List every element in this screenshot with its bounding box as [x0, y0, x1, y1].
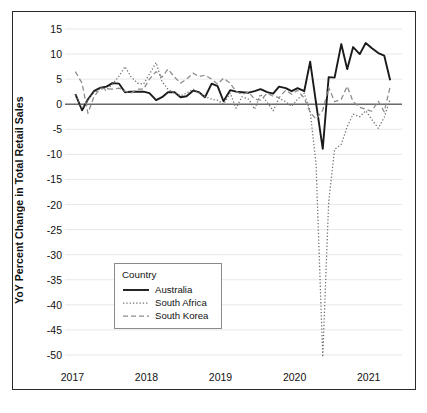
y-tick-label: -15: [26, 173, 62, 185]
x-tick-label: 2017: [61, 371, 84, 383]
legend-item-label: South Africa: [155, 297, 207, 308]
legend-item-label: South Korea: [155, 310, 208, 321]
chart-figure: YoY Percent Change in Total Retail Sales…: [0, 0, 427, 413]
y-tick-label: -20: [26, 199, 62, 211]
y-axis-tick-labels: 151050-5-10-15-20-25-30-35-40-45-50: [22, 24, 62, 365]
legend-title: Country: [122, 269, 214, 280]
legend-item-australia: Australia: [122, 283, 214, 296]
y-tick-label: 5: [26, 73, 62, 85]
y-tick-label: -40: [26, 299, 62, 311]
x-tick-label: 2019: [209, 371, 232, 383]
y-tick-label: -35: [26, 274, 62, 286]
y-tick-label: 15: [26, 23, 62, 35]
x-tick-label: 2018: [135, 371, 158, 383]
x-tick-label: 2020: [283, 371, 306, 383]
y-tick-label: 10: [26, 48, 62, 60]
y-tick-label: -50: [26, 349, 62, 361]
series-line-south-korea: [75, 69, 390, 119]
y-tick-label: -5: [26, 123, 62, 135]
legend: Country AustraliaSouth AfricaSouth Korea: [114, 263, 222, 329]
legend-item-label: Australia: [155, 284, 192, 295]
legend-line-swatch: [122, 298, 150, 308]
legend-entries: AustraliaSouth AfricaSouth Korea: [122, 283, 214, 322]
y-tick-label: -25: [26, 224, 62, 236]
y-tick-label: -30: [26, 249, 62, 261]
y-tick-label: -45: [26, 324, 62, 336]
legend-item-south-africa: South Africa: [122, 296, 214, 309]
legend-line-swatch: [122, 285, 150, 295]
y-tick-label: -10: [26, 148, 62, 160]
x-tick-label: 2021: [357, 371, 380, 383]
legend-item-south-korea: South Korea: [122, 309, 214, 322]
y-tick-label: 0: [26, 98, 62, 110]
legend-line-swatch: [122, 311, 150, 321]
x-axis-tick-labels: 20172018201920202021: [65, 371, 402, 387]
